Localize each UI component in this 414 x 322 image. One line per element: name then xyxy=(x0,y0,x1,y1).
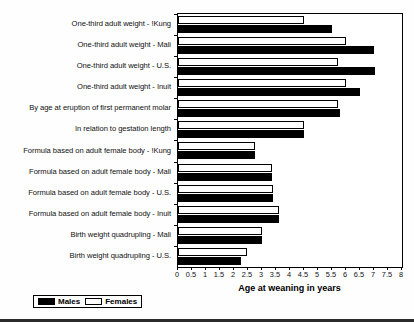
category-tick xyxy=(174,225,178,226)
category-tick xyxy=(174,14,178,15)
x-tick-label: 7 xyxy=(371,270,375,279)
legend-label: Females xyxy=(105,297,137,306)
x-tick-label: 2 xyxy=(231,270,235,279)
bar-males xyxy=(178,173,272,181)
category-label: Birth weight quadrupling - Mali xyxy=(0,224,174,245)
bar-males xyxy=(178,151,255,159)
bar-row xyxy=(178,162,402,183)
category-tick xyxy=(174,204,178,205)
category-label: One-third adult weight - U.S. xyxy=(0,55,174,76)
category-tick xyxy=(174,140,178,141)
x-tick-label: 5.5 xyxy=(326,270,336,279)
bar-males xyxy=(178,25,332,33)
x-tick-label: 1 xyxy=(203,270,207,279)
bar-females xyxy=(178,248,247,256)
category-tick xyxy=(174,162,178,163)
bar-males xyxy=(178,194,273,202)
bar-females xyxy=(178,227,262,235)
bar-row xyxy=(178,98,402,119)
bar-row xyxy=(178,140,402,161)
category-tick xyxy=(174,246,178,247)
bar-females xyxy=(178,58,338,66)
x-tick-label: 5 xyxy=(315,270,319,279)
category-tick xyxy=(174,98,178,99)
category-label: Formula based on adult female body - !Ku… xyxy=(0,139,174,160)
x-tick-label: 2.5 xyxy=(242,270,252,279)
bar-row xyxy=(178,35,402,56)
category-tick xyxy=(174,77,178,78)
category-tick xyxy=(174,119,178,120)
bar-females xyxy=(178,185,273,193)
x-tick-label: 4 xyxy=(287,270,291,279)
legend-label: Males xyxy=(58,297,80,306)
x-tick-label: 1.5 xyxy=(214,270,224,279)
x-axis-ticks: 00.511.522.533.544.555.566.577.58 xyxy=(177,267,402,283)
bar-males xyxy=(178,67,375,75)
legend-item: Females xyxy=(85,297,137,306)
category-label: One-third adult weight - !Kung xyxy=(0,13,174,34)
bar-males xyxy=(178,257,241,265)
x-tick-label: 3 xyxy=(259,270,263,279)
bar-row xyxy=(178,225,402,246)
chart-figure: One-third adult weight - !KungOne-third … xyxy=(0,0,414,322)
bar-row xyxy=(178,204,402,225)
x-tick-label: 3.5 xyxy=(270,270,280,279)
category-label: Formula based on adult female body - U.S… xyxy=(0,182,174,203)
category-label: One-third adult weight - Inuit xyxy=(0,76,174,97)
category-tick xyxy=(174,35,178,36)
category-label: By age at eruption of first permanent mo… xyxy=(0,97,174,118)
bar-rows xyxy=(178,14,402,267)
category-tick xyxy=(174,183,178,184)
bar-females xyxy=(178,206,279,214)
bar-females xyxy=(178,79,346,87)
x-tick-label: 7.5 xyxy=(382,270,392,279)
bar-males xyxy=(178,88,360,96)
bar-males xyxy=(178,236,262,244)
category-label: In relation to gestation length xyxy=(0,118,174,139)
bar-females xyxy=(178,16,304,24)
bar-males xyxy=(178,46,374,54)
category-label: One-third adult weight - Mali xyxy=(0,34,174,55)
bar-row xyxy=(178,56,402,77)
bar-females xyxy=(178,142,255,150)
x-tick-label: 0.5 xyxy=(186,270,196,279)
category-label: Birth weight quadrupling - U.S. xyxy=(0,245,174,266)
x-tick-label: 0 xyxy=(175,270,179,279)
x-axis: 00.511.522.533.544.555.566.577.58 xyxy=(177,267,402,283)
legend-item: Males xyxy=(38,297,80,306)
x-tick-label: 6.5 xyxy=(354,270,364,279)
legend-swatch-male xyxy=(38,298,55,305)
x-tick-label: 8 xyxy=(399,270,403,279)
bar-females xyxy=(178,164,272,172)
bar-males xyxy=(178,130,304,138)
bar-females xyxy=(178,121,304,129)
x-axis-title: Age at weaning in years xyxy=(177,283,402,293)
x-tick-label: 6 xyxy=(343,270,347,279)
bar-row xyxy=(178,14,402,35)
bar-row xyxy=(178,119,402,140)
bar-males xyxy=(178,215,279,223)
category-tick xyxy=(174,56,178,57)
bar-row xyxy=(178,183,402,204)
bar-females xyxy=(178,100,338,108)
chart-legend: MalesFemales xyxy=(33,295,142,308)
category-axis-labels: One-third adult weight - !KungOne-third … xyxy=(0,13,174,266)
category-label: Formula based on adult female body - Inu… xyxy=(0,203,174,224)
category-label: Formula based on adult female body - Mal… xyxy=(0,161,174,182)
bar-males xyxy=(178,109,340,117)
bar-row xyxy=(178,246,402,267)
bar-row xyxy=(178,77,402,98)
plot-area xyxy=(177,13,403,268)
legend-swatch-female xyxy=(85,298,102,305)
bar-females xyxy=(178,37,346,45)
x-tick-label: 4.5 xyxy=(298,270,308,279)
